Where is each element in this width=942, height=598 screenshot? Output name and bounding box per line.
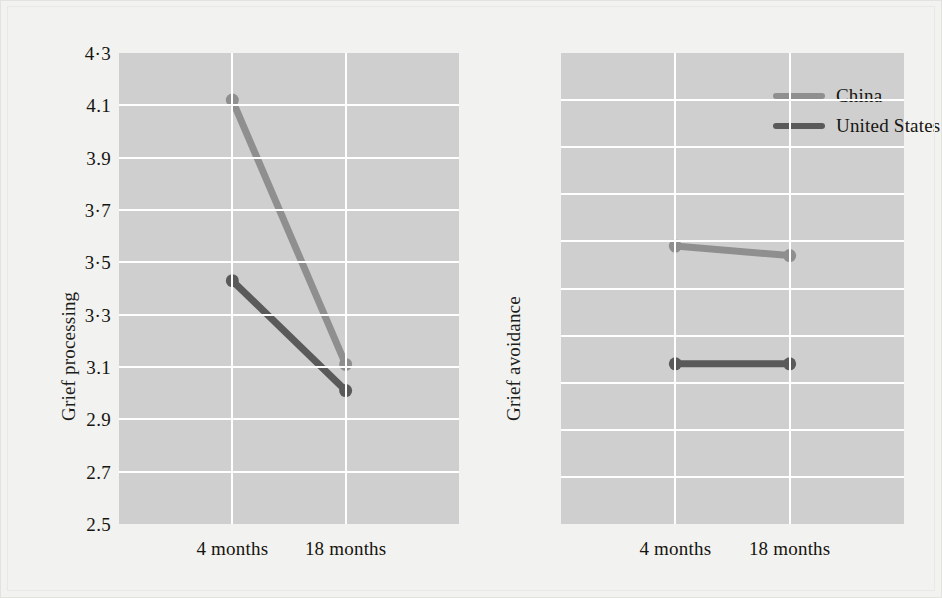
plot-area-left [119, 53, 459, 524]
series-line-united-states [232, 281, 345, 391]
series-line-china [675, 246, 789, 255]
gridline-horizontal [561, 146, 904, 148]
y-axis-tick-label: 3·7 [85, 201, 111, 220]
legend-item-china: China [773, 81, 940, 111]
gridline-horizontal [561, 193, 904, 195]
y-axis-tick-label: 3.9 [86, 148, 111, 167]
y-axis-tick-label: 2.9 [86, 410, 111, 429]
gridline-horizontal [561, 382, 904, 384]
plot-area-right: China United States [561, 53, 904, 524]
series-layer-left [119, 53, 459, 524]
gridline-horizontal [561, 99, 904, 101]
y-axis-tick-label: 3·3 [85, 305, 111, 324]
gridline-horizontal [119, 104, 459, 106]
gridline-vertical [789, 53, 791, 524]
series-line-china [232, 100, 345, 364]
gridline-horizontal [561, 429, 904, 431]
y-axis-tick-label: 4·3 [85, 44, 111, 63]
gridline-horizontal [561, 288, 904, 290]
gridline-horizontal [119, 157, 459, 159]
gridline-horizontal [561, 476, 904, 478]
legend-label-china: China [836, 85, 882, 107]
gridline-horizontal [119, 471, 459, 473]
gridline-vertical [345, 53, 347, 524]
gridline-horizontal [561, 335, 904, 337]
y-axis-tick-labels-left: 2.52.72.93.13·33·53·73.94.14·3 [57, 1, 111, 598]
legend-swatch-china [773, 93, 825, 99]
gridline-horizontal [119, 261, 459, 263]
x-axis-tick-label: 4 months [196, 538, 268, 560]
legend-swatch-united-states [773, 123, 825, 129]
y-axis-tick-label: 2.5 [86, 515, 111, 534]
y-axis-tick-label: 3·5 [85, 253, 111, 272]
gridline-horizontal [119, 418, 459, 420]
gridline-horizontal [119, 209, 459, 211]
y-axis-title-right: Grief avoidance [503, 296, 525, 421]
x-axis-tick-label: 4 months [639, 538, 711, 560]
y-axis-tick-label: 4.1 [86, 96, 111, 115]
figure-container: Grief processing 2.52.72.93.13·33·53·73.… [0, 0, 942, 598]
chart-panel-grief-avoidance: Grief avoidance 1.01.21.41.61.82.02.22.4… [481, 1, 942, 598]
gridline-vertical [674, 53, 676, 524]
legend-label-united-states: United States [836, 115, 940, 137]
gridline-horizontal [119, 314, 459, 316]
gridline-horizontal [561, 240, 904, 242]
gridline-horizontal [119, 366, 459, 368]
legend: China United States [773, 81, 940, 141]
y-axis-tick-label: 3.1 [86, 358, 111, 377]
x-axis-tick-label: 18 months [305, 538, 387, 560]
y-axis-tick-label: 2.7 [86, 462, 111, 481]
chart-panel-grief-processing: Grief processing 2.52.72.93.13·33·53·73.… [1, 1, 481, 598]
gridline-vertical [231, 53, 233, 524]
legend-item-united-states: United States [773, 111, 940, 141]
x-axis-tick-label: 18 months [749, 538, 831, 560]
